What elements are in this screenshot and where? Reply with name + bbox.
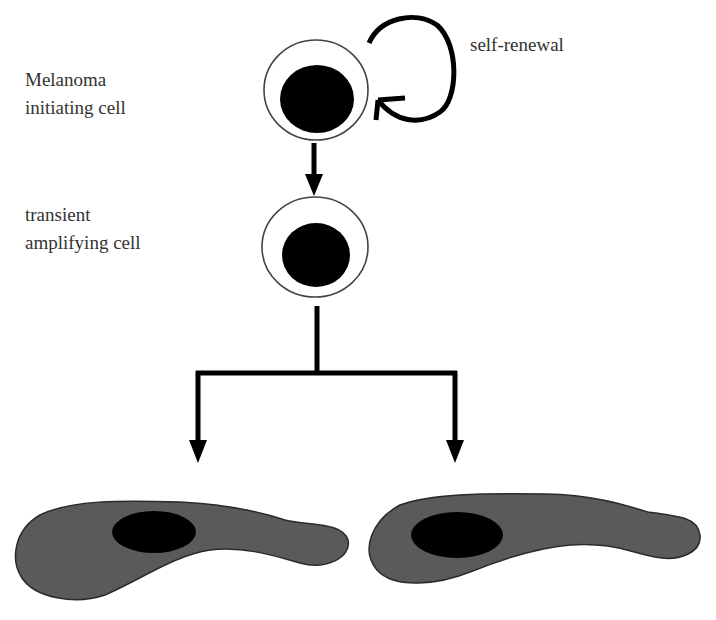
differentiated-cell-right <box>369 494 700 583</box>
self-renewal-label: self-renewal <box>470 34 564 55</box>
progenitor-label-line1: transient <box>25 204 91 225</box>
cell-nucleus <box>411 512 503 558</box>
stem-cell-label-line2: initiating cell <box>25 97 126 118</box>
progenitor-label: transient amplifying cell <box>25 204 141 253</box>
differentiated-cell-left <box>16 501 349 599</box>
cell-nucleus <box>280 65 354 133</box>
transient-amplifying-cell <box>262 197 368 297</box>
stem-cell-label-line1: Melanoma <box>25 69 107 90</box>
arrowhead-left <box>189 440 207 463</box>
arrowhead-right <box>446 440 464 463</box>
cell-nucleus <box>282 223 350 287</box>
cell-nucleus <box>112 511 196 553</box>
melanoma-initiating-cell <box>264 40 368 140</box>
arrow-stem-to-progenitor <box>305 143 323 196</box>
branch-arrows <box>189 306 464 463</box>
cell-hierarchy-diagram: Melanoma initiating cell self-renewal tr… <box>0 0 716 620</box>
progenitor-label-line2: amplifying cell <box>25 232 141 253</box>
cell-body <box>16 501 349 599</box>
self-renewal-arrow-line <box>369 17 454 120</box>
self-renewal-arrow <box>369 17 454 120</box>
arrowhead-down <box>305 174 323 196</box>
stem-cell-label: Melanoma initiating cell <box>25 69 126 118</box>
